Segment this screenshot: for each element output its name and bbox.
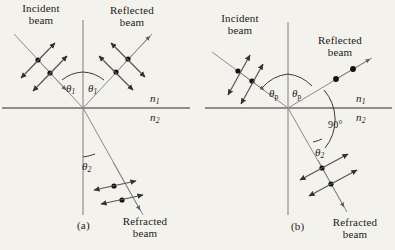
angle-arc-incidence-a — [62, 72, 83, 80]
refracted-beam-label-b: Refractedbeam — [314, 217, 395, 240]
angle-ninety-label-b: 90° — [328, 120, 343, 131]
polarization-dot — [333, 76, 339, 82]
index-upper-label-a: n1 — [150, 93, 160, 106]
incident-beam-label-a: Incidentbeam — [4, 3, 78, 26]
polarization-dot — [350, 66, 356, 72]
panel-caption-b: (b) — [291, 221, 304, 233]
polarization-arrow — [101, 195, 143, 204]
panel-a — [2, 20, 190, 215]
polarization-arrow — [228, 55, 250, 95]
angle-refraction-label-a: θ2 — [82, 161, 92, 174]
incident-beam-label-b: Incidentbeam — [203, 13, 277, 36]
refracted-ray-direction-arrow-a — [113, 162, 140, 210]
angle-arc-refraction-b — [313, 139, 322, 142]
panel-caption-a: (a) — [77, 220, 90, 232]
reflected-beam-label-b: Reflectedbeam — [300, 35, 380, 58]
refracted-beam-label-a: Refractedbeam — [104, 216, 186, 239]
index-lower-label-a: n2 — [150, 112, 160, 125]
polarization-arrow — [241, 64, 263, 104]
index-upper-label-b: n1 — [356, 93, 366, 106]
angle-refraction-label-b: θ2 — [315, 147, 325, 160]
polarization-arrow — [94, 181, 136, 190]
reflected-beam-label-a: Reflectedbeam — [92, 5, 172, 28]
angle-reflection-label-b: θp — [292, 88, 302, 101]
incident-ray-direction-arrow-a — [40, 62, 66, 90]
angle-arc-incidence-b — [262, 74, 288, 88]
index-lower-label-b: n2 — [356, 112, 366, 125]
angle-reflection-label-a: θ1 — [88, 83, 98, 96]
angle-arc-reflection-a — [83, 72, 104, 80]
reflected-ray-direction-arrow-a — [120, 36, 150, 68]
angle-incidence-label-a: θ1 — [66, 83, 76, 96]
polarization-arrow — [309, 170, 357, 196]
angle-arc-refraction-a — [83, 154, 95, 157]
angle-arc-reflection-b — [288, 74, 312, 86]
angle-incidence-label-b: θp — [269, 88, 279, 101]
